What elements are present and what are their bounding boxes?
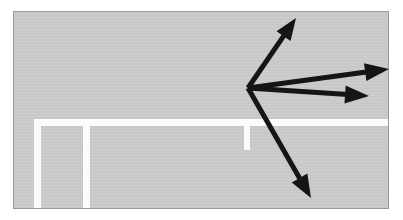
photo-frame bbox=[13, 11, 389, 209]
road-surface bbox=[14, 12, 388, 208]
stop-line-horizontal bbox=[34, 119, 389, 126]
scene-root bbox=[0, 0, 403, 220]
lane-line-vertical-left bbox=[34, 126, 41, 209]
lane-divider-tick bbox=[244, 126, 250, 150]
lane-line-vertical-middle bbox=[83, 126, 90, 209]
